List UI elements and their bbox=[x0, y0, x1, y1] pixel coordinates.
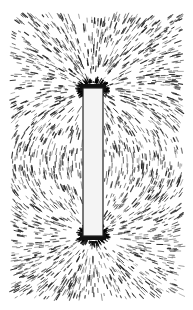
iron-filings-photo bbox=[0, 0, 193, 310]
bar-magnet bbox=[83, 88, 103, 236]
